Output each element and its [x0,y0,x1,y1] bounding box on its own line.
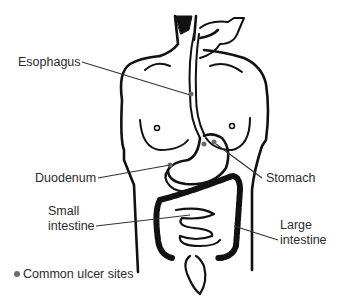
label-stomach: Stomach [266,171,315,186]
rectum [185,256,205,294]
clavicle-right [210,64,242,72]
leader-large-intestine [234,226,278,240]
label-small-intestine: Small intestine [48,204,95,234]
ulcer-site-esophagus [189,92,194,97]
ulcer-site-stomach-2 [202,142,207,147]
nipple-left [155,126,160,131]
label-small-intestine-line1: Small [48,204,95,219]
leader-duodenum [98,165,170,178]
label-duodenum: Duodenum [35,171,96,186]
chest-left [140,120,188,150]
esophagus-tube [190,34,201,138]
label-large-intestine: Large intestine [280,218,327,248]
label-esophagus: Esophagus [18,55,81,70]
leader-esophagus [82,62,190,95]
label-large-intestine-line1: Large [280,218,327,233]
legend: Common ulcer sites [14,267,133,281]
clavicle-left [145,64,170,70]
leader-small-intestine [96,215,190,226]
nipple-right [230,124,235,129]
small-intestine [176,209,220,246]
legend-text: Common ulcer sites [23,267,133,281]
digestive-system-diagram [0,0,341,300]
esophagus-tube-inner [196,34,204,134]
torso-left [121,56,160,272]
ulcer-site-stomach [212,140,217,145]
label-large-intestine-line2: intestine [280,233,327,248]
stomach-outline [168,134,228,184]
label-small-intestine-line2: intestine [48,219,95,234]
ulcer-dot-icon [14,271,20,277]
